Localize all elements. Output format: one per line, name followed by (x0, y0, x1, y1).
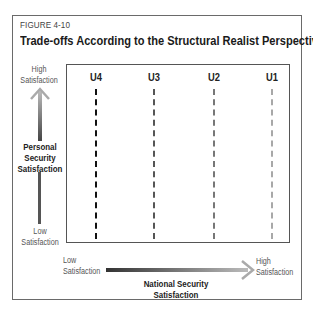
indifference-line-u1 (271, 89, 273, 239)
figure-title: Trade-offs According to the Structural R… (20, 33, 313, 48)
y-title-line1: Personal (17, 142, 63, 153)
x-title-line1: National Security (132, 279, 220, 290)
figure-label: FIGURE 4-10 (20, 20, 70, 30)
x-axis-low-label: Low Satisfaction (63, 255, 101, 277)
y-title-line2: Security (17, 153, 63, 164)
plot-area (66, 64, 290, 243)
x-title-line2: Satisfaction (132, 290, 220, 301)
y-high-line1: High (18, 64, 61, 75)
curve-label-u3: U3 (148, 71, 160, 83)
y-axis-bar-low (38, 172, 42, 224)
curve-label-u2: U2 (208, 71, 220, 83)
y-axis-title: Personal Security Satisfaction (17, 142, 63, 175)
x-high-line2: Satisfaction (256, 267, 297, 278)
curve-label-u4: U4 (90, 71, 102, 83)
y-axis-high-label: High Satisfaction (18, 64, 61, 86)
y-low-line2: Satisfaction (18, 237, 62, 248)
curve-label-u1: U1 (266, 71, 278, 83)
x-low-line1: Low (63, 255, 101, 266)
x-axis-title: National Security Satisfaction (132, 279, 220, 301)
y-axis-low-label: Low Satisfaction (18, 226, 62, 248)
y-high-line2: Satisfaction (18, 75, 61, 86)
right-arrow-icon (106, 260, 256, 280)
x-low-line2: Satisfaction (63, 266, 101, 277)
indifference-line-u3 (153, 89, 155, 239)
indifference-line-u2 (213, 89, 215, 239)
x-axis-high-label: High Satisfaction (256, 256, 297, 278)
indifference-line-u4 (95, 89, 97, 239)
x-high-line1: High (256, 256, 297, 267)
up-arrow-icon (30, 86, 50, 141)
y-low-line1: Low (18, 226, 62, 237)
